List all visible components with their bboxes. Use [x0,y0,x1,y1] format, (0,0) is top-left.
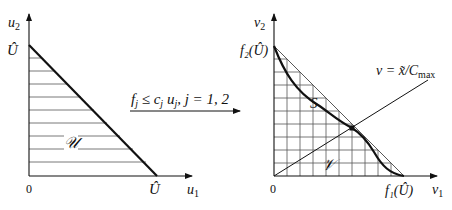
intersection-point [350,126,355,131]
u1-axis-label: u1 [187,182,199,199]
region-u-label: 𝒰 [64,134,83,151]
v1-axis-label: v1 [432,182,443,199]
right-plot [274,14,437,176]
u-hat-y-label: Û [7,42,19,58]
u2-axis-label: u2 [8,15,20,32]
right-grid [274,40,410,176]
u-hat-x-label: Û [149,181,161,197]
mapping-label: fj ≤ cj uj, j = 1, 2 [131,91,229,109]
region-v-label: 𝒱 [322,156,341,173]
f2-u-hat-label: f₂(Û) [240,42,269,59]
v2-axis-label: v2 [254,15,265,32]
ray-label: v = x̃/Cmax [376,63,435,80]
f1-u-hat-label: f₁(Û) [385,182,414,199]
left-origin-label: 0 [26,182,32,196]
diagram-canvas: u2 Û 0 Û u1 𝒰 fj ≤ cj uj, j = 1, 2 v2 f₂… [0,0,452,210]
right-origin-label: 0 [270,182,276,196]
curve-s-label: S [310,95,318,111]
